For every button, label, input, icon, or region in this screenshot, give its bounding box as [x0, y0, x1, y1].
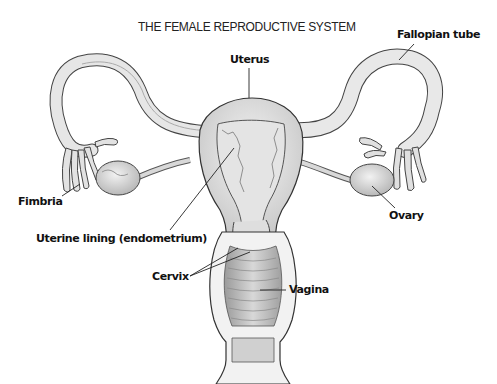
diagram-title: THE FEMALE REPRODUCTIVE SYSTEM	[138, 20, 356, 34]
label-fallopian-tube: Fallopian tube	[397, 28, 480, 41]
label-ovary: Ovary	[389, 209, 424, 222]
label-uterus: Uterus	[230, 53, 269, 66]
label-cervix: Cervix	[152, 270, 189, 283]
vagina	[210, 232, 296, 384]
left-ovary	[96, 160, 190, 195]
right-ovary	[300, 162, 394, 196]
left-fallopian-tube	[56, 60, 210, 151]
label-vagina: Vagina	[289, 283, 329, 296]
label-fimbria: Fimbria	[18, 195, 62, 208]
label-uterine-lining: Uterine lining (endometrium)	[36, 232, 207, 245]
right-fallopian-tube	[292, 56, 435, 150]
